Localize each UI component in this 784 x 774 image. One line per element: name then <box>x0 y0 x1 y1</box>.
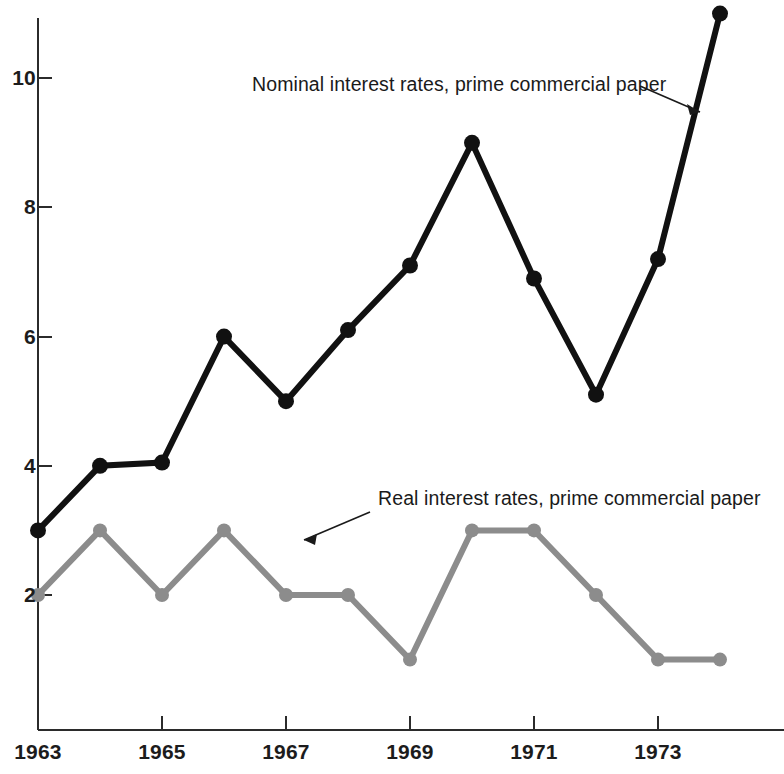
series-real <box>31 523 727 666</box>
data-point-real-1974 <box>713 653 727 667</box>
y-tick-label-6: 6 <box>0 325 36 349</box>
data-point-real-1972 <box>589 588 603 602</box>
data-point-real-1965 <box>155 588 169 602</box>
data-point-real-1969 <box>403 653 417 667</box>
data-point-nominal-1972 <box>588 387 604 403</box>
data-point-real-1967 <box>279 588 293 602</box>
data-point-real-1968 <box>341 588 355 602</box>
data-point-nominal-1963 <box>30 522 46 538</box>
annotation-leader-real <box>304 512 370 545</box>
y-tick-label-8: 8 <box>0 195 36 219</box>
series-path-real <box>38 530 720 659</box>
data-point-nominal-1964 <box>92 458 108 474</box>
x-tick-label-1967: 1967 <box>241 740 331 764</box>
data-point-real-1970 <box>465 523 479 537</box>
y-tick-label-4: 4 <box>0 454 36 478</box>
data-point-nominal-1971 <box>526 271 542 287</box>
y-tick-label-10: 10 <box>0 66 36 90</box>
x-tick-label-1963: 1963 <box>0 740 83 764</box>
data-point-real-1964 <box>93 523 107 537</box>
x-tick-label-1971: 1971 <box>489 740 579 764</box>
annotation-nominal-label: Nominal interest rates, prime commercial… <box>252 73 666 96</box>
x-tick-label-1973: 1973 <box>613 740 703 764</box>
x-tick-label-1965: 1965 <box>117 740 207 764</box>
data-point-nominal-1973 <box>650 251 666 267</box>
data-point-nominal-1966 <box>216 329 232 345</box>
data-point-nominal-1968 <box>340 322 356 338</box>
data-point-nominal-1974 <box>712 6 728 22</box>
data-point-nominal-1970 <box>464 135 480 151</box>
annotation-real-label: Real interest rates, prime commercial pa… <box>378 487 761 510</box>
interest-rates-chart: 10 8 6 4 2 1963 1965 1967 1969 1971 1973… <box>0 0 784 774</box>
data-point-nominal-1969 <box>402 258 418 274</box>
data-point-nominal-1965 <box>154 455 170 471</box>
x-tick-label-1969: 1969 <box>365 740 455 764</box>
y-tick-label-2: 2 <box>0 583 36 607</box>
data-point-real-1971 <box>527 523 541 537</box>
data-point-nominal-1967 <box>278 393 294 409</box>
x-axis-ticks <box>162 716 658 730</box>
chart-canvas <box>0 0 784 774</box>
data-point-real-1966 <box>217 523 231 537</box>
data-point-real-1973 <box>651 653 665 667</box>
